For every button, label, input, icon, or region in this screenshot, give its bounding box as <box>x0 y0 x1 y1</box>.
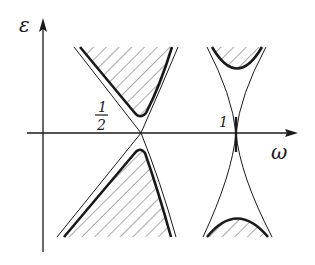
x-axis-label: ω <box>271 140 287 164</box>
right-figure <box>203 47 272 237</box>
phase-diagram: ε ω 1 2 1 <box>0 0 315 265</box>
cusp-curves <box>203 47 272 237</box>
tick-half-numerator: 1 <box>98 99 107 115</box>
tick-half-denominator: 2 <box>96 117 106 133</box>
tick-one: 1 <box>219 114 228 130</box>
y-axis-label: ε <box>19 13 30 37</box>
left-upper-region <box>80 47 172 116</box>
diagram-canvas: ε ω 1 2 1 <box>0 0 315 265</box>
